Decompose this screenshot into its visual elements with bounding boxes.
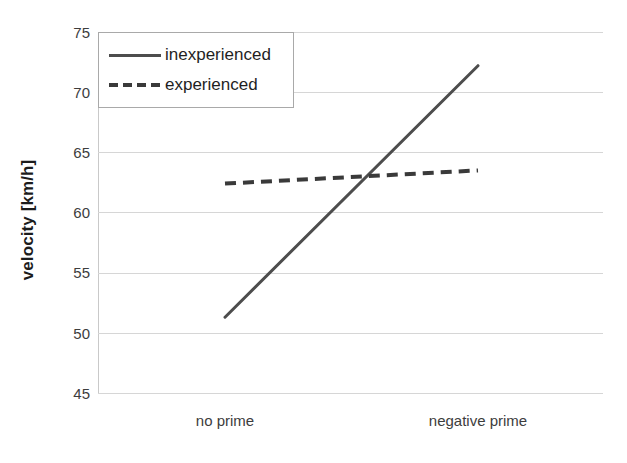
y-tick-50: 50 xyxy=(54,325,90,342)
x-tick-no-prime: no prime xyxy=(196,412,254,429)
x-tick-negative-prime: negative prime xyxy=(429,412,527,429)
legend-label-experienced: experienced xyxy=(165,75,258,95)
gridline-45 xyxy=(98,393,603,394)
legend: inexperienced experienced xyxy=(98,32,294,108)
y-tick-70: 70 xyxy=(54,84,90,101)
y-axis-title: velocity [km/h] xyxy=(0,0,56,463)
y-axis-title-label: velocity [km/h] xyxy=(18,159,38,280)
legend-swatch-dashed-icon xyxy=(109,79,161,91)
y-tick-75: 75 xyxy=(54,24,90,41)
legend-item-inexperienced: inexperienced xyxy=(109,40,293,70)
y-tick-60: 60 xyxy=(54,204,90,221)
legend-item-experienced: experienced xyxy=(109,70,293,100)
y-axis-tick-labels: 75 70 65 60 55 50 45 xyxy=(52,0,90,463)
legend-swatch-solid-icon xyxy=(109,49,161,61)
legend-label-inexperienced: inexperienced xyxy=(165,45,271,65)
chart-figure: velocity [km/h] 75 70 65 60 55 50 45 ine… xyxy=(0,0,627,463)
y-tick-45: 45 xyxy=(54,385,90,402)
y-tick-55: 55 xyxy=(54,264,90,281)
y-tick-65: 65 xyxy=(54,144,90,161)
series-line-experienced xyxy=(225,170,478,183)
